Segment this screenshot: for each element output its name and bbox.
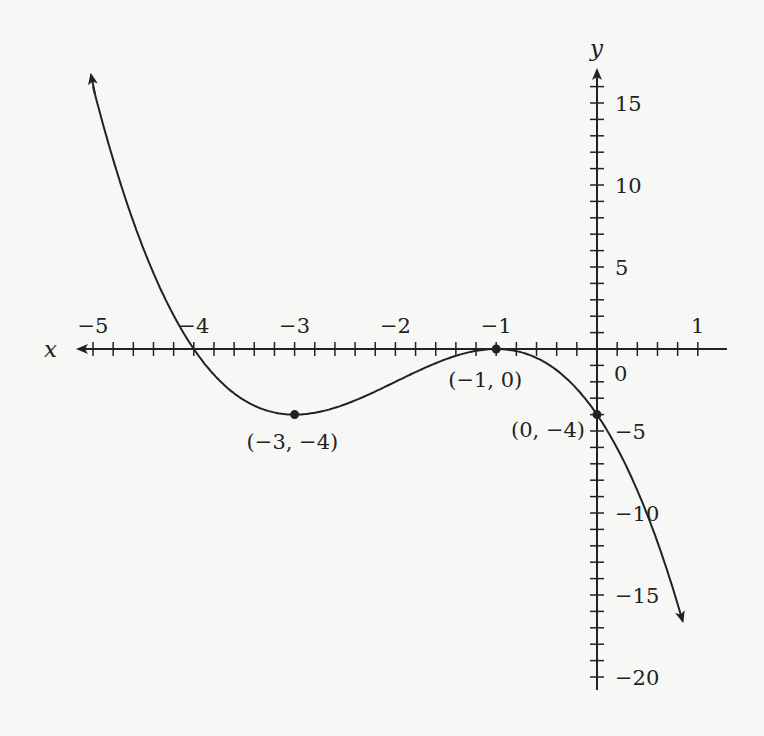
y-tick-label: 5 (615, 256, 628, 280)
point-marker (593, 410, 602, 419)
labeled-points: (−3, −4)(−1, 0)(0, −4) (247, 345, 602, 454)
x-tick-label: −5 (78, 314, 109, 338)
point-label: (−1, 0) (448, 368, 522, 392)
point-marker (290, 410, 299, 419)
cubic-function-graph: −5−4−3−2−1115105−5−10−15−20 (−3, −4)(−1,… (0, 0, 764, 736)
y-tick-label: −5 (615, 420, 646, 444)
y-tick-label: 15 (615, 92, 642, 116)
y-tick-label: −20 (615, 666, 659, 690)
point-label: (0, −4) (511, 418, 585, 442)
point-label: (−3, −4) (247, 430, 339, 454)
x-tick-label: −1 (481, 314, 512, 338)
curve-start-arrow (91, 75, 95, 95)
y-tick-label: −15 (615, 584, 659, 608)
x-tick-label: −3 (279, 314, 310, 338)
x-tick-label: −2 (380, 314, 411, 338)
y-tick-label: 10 (615, 174, 642, 198)
x-tick-label: −4 (178, 314, 209, 338)
x-axis-label: x (44, 336, 57, 362)
y-tick-label: −10 (615, 502, 659, 526)
function-curve (93, 87, 683, 622)
x-tick-label: 1 (691, 314, 704, 338)
y-axis-label: y (589, 35, 604, 61)
tick-labels: −5−4−3−2−1115105−5−10−15−20 (78, 92, 705, 690)
point-marker (492, 345, 501, 354)
origin-label: 0 (614, 362, 627, 386)
